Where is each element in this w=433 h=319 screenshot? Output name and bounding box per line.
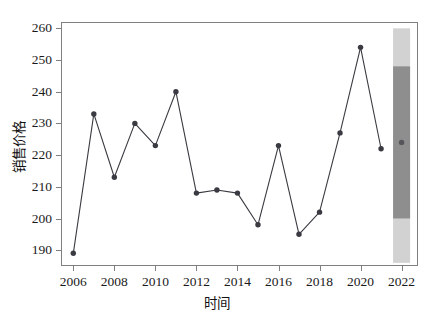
data-point: [255, 222, 260, 227]
x-tick-mark: [196, 266, 197, 271]
data-point: [173, 89, 178, 94]
x-tick-mark: [237, 266, 238, 271]
data-point: [112, 175, 117, 180]
x-tick-mark: [114, 266, 115, 271]
y-tick-mark: [56, 250, 61, 251]
data-point: [214, 187, 219, 192]
x-tick-mark: [361, 266, 362, 271]
y-tick-label: 250: [5, 52, 52, 68]
y-tick-mark: [56, 60, 61, 61]
x-tick-mark: [320, 266, 321, 271]
data-point: [71, 251, 76, 256]
y-tick-mark: [56, 28, 61, 29]
data-point: [378, 146, 383, 151]
data-point: [132, 121, 137, 126]
y-tick-mark: [56, 219, 61, 220]
y-tick-mark: [56, 123, 61, 124]
y-axis-title: 销售价格: [8, 87, 28, 207]
y-tick-mark: [56, 187, 61, 188]
data-point: [153, 143, 158, 148]
data-point: [337, 130, 342, 135]
x-tick-mark: [155, 266, 156, 271]
line-chart: 200620082010201220142016201820202022 190…: [0, 0, 433, 319]
series-layer: [0, 0, 433, 319]
x-tick-mark: [73, 266, 74, 271]
data-point: [358, 45, 363, 50]
x-axis-title: 时间: [0, 292, 433, 312]
data-point: [296, 232, 301, 237]
data-point: [317, 209, 322, 214]
y-tick-label: 260: [5, 20, 52, 36]
series-line-0: [73, 47, 381, 253]
forecast-point: [399, 140, 404, 145]
data-point: [194, 190, 199, 195]
data-point: [276, 143, 281, 148]
data-point: [91, 111, 96, 116]
y-tick-label: 200: [5, 211, 52, 227]
data-point: [235, 190, 240, 195]
y-tick-mark: [56, 92, 61, 93]
x-tick-mark: [279, 266, 280, 271]
y-tick-label: 190: [5, 242, 52, 258]
x-tick-mark: [402, 266, 403, 271]
y-tick-mark: [56, 155, 61, 156]
x-tick-label: 2022: [372, 274, 432, 290]
